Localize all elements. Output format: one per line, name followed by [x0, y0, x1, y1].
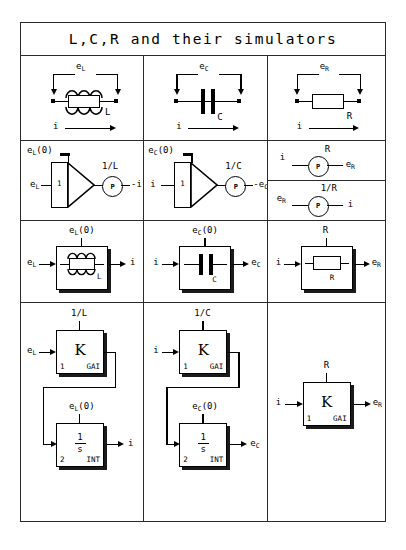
potentiometer-icon: P: [102, 176, 123, 197]
resistor-gain-block: K 1 GAI: [303, 382, 351, 426]
resistor-inner-lead-left: [305, 263, 313, 264]
resistor-block-top-label: R: [323, 226, 328, 235]
resistor-current-arrow-head: [353, 125, 359, 131]
integrator-fraction: 1 s: [180, 433, 226, 454]
resistor-bottom-input-wire: [292, 205, 308, 206]
inductor-block-input-arrow: [50, 261, 56, 267]
integrator-output-arrow: [118, 441, 124, 447]
inductor-block-input-label: eL: [27, 258, 36, 269]
resistor-sim-input-label: i: [276, 398, 281, 407]
amp-input-wire: [161, 185, 175, 186]
resistor-top-input-label: i: [280, 153, 285, 162]
integrator-numerator: 1: [201, 432, 206, 442]
gain-k-symbol: K: [57, 341, 103, 359]
row-block-elements: eL(0) L eL i eC(0: [21, 221, 385, 303]
inductor-sim-input-arrow: [50, 349, 56, 355]
terminal-node-right: [357, 99, 361, 103]
inductor-voltage-label: eL: [76, 62, 85, 73]
capacitor-block-top-stub: [204, 238, 205, 246]
table-title-row: L,C,R and their simulators: [21, 23, 385, 56]
inductor-inner-lead-right: [95, 264, 104, 265]
capacitor-sim-input-arrow: [173, 349, 179, 355]
resistor-block-top-stub: [326, 238, 327, 246]
capacitor-current-arrow-head: [233, 125, 239, 131]
voltage-arrow-left-head: [51, 89, 57, 95]
figure-title: L,C,R and their simulators: [69, 31, 338, 47]
capacitor-voltage-label: eC: [199, 62, 208, 73]
integrator-output-arrow: [241, 441, 247, 447]
capacitor-lead-wire: [175, 101, 240, 102]
capacitor-sim-output-label: eC: [250, 439, 259, 450]
pot-output-wire: [121, 185, 130, 186]
resistor-top-output-wire: [327, 165, 343, 166]
inductor-analog-input-label: eL: [30, 180, 39, 191]
figure-page: L,C,R and their simulators eL: [0, 0, 406, 550]
gain-corner-left: 1: [307, 414, 312, 423]
capacitor-inner-lead-left: [184, 264, 199, 265]
capacitor-gain-block: K 1 GAI: [179, 330, 227, 374]
table-body: eL L i eC: [21, 56, 385, 521]
resistor-block-output-arrow: [364, 261, 370, 267]
cell-inductor-analog: eL(0) 1 eL 1/L P -i: [21, 141, 144, 220]
cell-inductor-simulator: 1/L K 1 GAI eL eL(0): [21, 303, 144, 521]
resistor-top-output-label: eR: [346, 160, 355, 171]
potentiometer-icon: P: [308, 156, 329, 177]
integrator-denominator: s: [201, 444, 206, 454]
inductor-sim-ic-stub: [79, 414, 80, 423]
terminal-node-right: [237, 99, 241, 103]
resistor-bottom-output-label: i: [348, 200, 353, 209]
capacitor-gain-label: 1/C: [225, 162, 241, 171]
resistor-block-input-arrow: [295, 261, 301, 267]
capacitor-sim-ic-label: eC(0): [192, 402, 218, 413]
capacitor-plate-right: [211, 89, 214, 114]
capacitor-inner-lead-right: [212, 264, 227, 265]
inductor-inner-lead-left: [60, 264, 69, 265]
gain-corner-left: 1: [183, 362, 188, 371]
inductor-analog-output-label: -i: [131, 180, 142, 189]
gain-output-drop: [238, 352, 239, 388]
terminal-node-left: [295, 99, 299, 103]
row-simulator-diagrams: 1/L K 1 GAI eL eL(0): [21, 303, 385, 521]
feedback-horizontal-wire: [43, 387, 116, 388]
integrator-corner-left: 2: [183, 455, 188, 464]
capacitor-sim-gain-top-label: 1/C: [194, 309, 210, 318]
integrator-denominator: s: [77, 444, 82, 454]
integrator-corner-right: INT: [210, 455, 224, 464]
inductor-block-top-stub: [81, 238, 82, 246]
voltage-arrow-right-head: [238, 89, 244, 95]
voltage-arrow-left-head: [174, 89, 180, 95]
inductor-block-element-label: L: [97, 273, 102, 281]
inductor-sim-gain-top-label: 1/L: [71, 309, 87, 318]
inductor-current-arrow-head: [110, 125, 116, 131]
voltage-bracket-right-top: [219, 74, 241, 75]
inductor-block-output-label: i: [130, 258, 135, 267]
amp-input-number: 1: [57, 180, 62, 188]
resistor-top-gain-label: R: [325, 145, 330, 154]
cell-capacitor-block: eC(0) C i eC: [144, 221, 267, 302]
inductor-element-label: L: [105, 108, 110, 117]
capacitor-initial-condition-label: eC(0): [148, 146, 174, 157]
voltage-bracket-right-top: [339, 74, 361, 75]
amp-input-wire: [41, 185, 52, 186]
row-analog-computer: eL(0) 1 eL 1/L P -i eC(0): [21, 141, 385, 221]
feedback-vertical-wire: [166, 387, 167, 445]
resistor-voltage-label: eR: [320, 62, 329, 73]
inductor-coil-bottom-icon: [67, 269, 97, 276]
capacitor-element-label: C: [217, 113, 222, 122]
inductor-block-top-label: eL(0): [69, 226, 95, 237]
cell-inductor-block: eL(0) L eL i: [21, 221, 144, 302]
potentiometer-icon: P: [308, 196, 329, 217]
capacitor-sim-gain-top-stub: [202, 321, 203, 330]
resistor-sim-gain-top-label: R: [324, 361, 329, 370]
terminal-node-left: [51, 99, 55, 103]
capacitor-analog-input-label: i: [150, 180, 155, 189]
resistor-body-rect: [313, 256, 341, 270]
inductor-gain-label: 1/L: [102, 162, 118, 171]
resistor-sim-output-arrow: [365, 401, 371, 407]
integrator-corner-left: 2: [60, 455, 65, 464]
gain-output-drop: [115, 352, 116, 388]
resistor-current-arrow-shaft: [309, 128, 354, 129]
voltage-bracket-left-top: [297, 74, 319, 75]
capacitor-block-element-label: C: [212, 276, 217, 284]
lcr-simulator-table: L,C,R and their simulators eL: [20, 22, 386, 522]
